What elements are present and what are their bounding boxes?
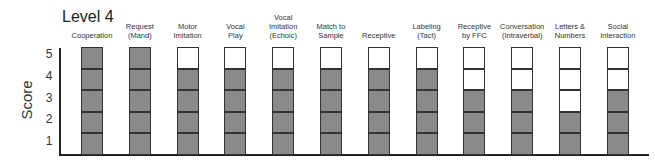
filled-score-cell <box>368 133 390 155</box>
score-column <box>368 47 390 155</box>
y-axis-label: Score <box>18 80 35 120</box>
empty-score-cell <box>511 47 533 69</box>
empty-score-cell <box>272 47 294 69</box>
y-tick-2: 2 <box>44 112 54 126</box>
score-column <box>81 47 103 155</box>
filled-score-cell <box>177 133 199 155</box>
filled-score-cell <box>463 133 485 155</box>
filled-score-cell <box>511 90 533 112</box>
filled-score-cell <box>320 133 342 155</box>
chart-title: Level 4 <box>62 8 114 26</box>
empty-score-cell <box>320 47 342 69</box>
filled-score-cell <box>559 133 581 155</box>
filled-score-cell <box>129 69 151 91</box>
filled-score-cell <box>224 90 246 112</box>
score-column <box>320 47 342 155</box>
filled-score-cell <box>416 90 438 112</box>
filled-score-cell <box>272 90 294 112</box>
filled-score-cell <box>463 90 485 112</box>
filled-score-cell <box>81 47 103 69</box>
score-column <box>559 47 581 155</box>
y-tick-4: 4 <box>44 69 54 83</box>
filled-score-cell <box>81 90 103 112</box>
filled-score-cell <box>272 112 294 134</box>
filled-score-cell <box>320 112 342 134</box>
empty-score-cell <box>463 47 485 69</box>
filled-score-cell <box>272 69 294 91</box>
filled-score-cell <box>320 90 342 112</box>
score-column <box>224 47 246 155</box>
y-tick-1: 1 <box>44 134 54 148</box>
filled-score-cell <box>416 112 438 134</box>
filled-score-cell <box>177 69 199 91</box>
y-tick-3: 3 <box>44 91 54 105</box>
filled-score-cell <box>177 112 199 134</box>
y-axis <box>59 48 61 156</box>
filled-score-cell <box>416 133 438 155</box>
filled-score-cell <box>416 69 438 91</box>
filled-score-cell <box>463 112 485 134</box>
score-column <box>511 47 533 155</box>
filled-score-cell <box>129 90 151 112</box>
filled-score-cell <box>368 69 390 91</box>
empty-score-cell <box>559 47 581 69</box>
empty-score-cell <box>559 69 581 91</box>
empty-score-cell <box>416 47 438 69</box>
filled-score-cell <box>81 69 103 91</box>
filled-score-cell <box>177 90 199 112</box>
filled-score-cell <box>511 112 533 134</box>
filled-score-cell <box>607 133 629 155</box>
empty-score-cell <box>177 47 199 69</box>
filled-score-cell <box>224 69 246 91</box>
score-column <box>177 47 199 155</box>
empty-score-cell <box>559 90 581 112</box>
filled-score-cell <box>224 112 246 134</box>
filled-score-cell <box>368 90 390 112</box>
empty-score-cell <box>511 69 533 91</box>
filled-score-cell <box>129 133 151 155</box>
filled-score-cell <box>559 112 581 134</box>
empty-score-cell <box>463 69 485 91</box>
score-column <box>129 47 151 155</box>
y-tick-5: 5 <box>44 47 54 61</box>
score-column <box>607 47 629 155</box>
filled-score-cell <box>129 112 151 134</box>
empty-score-cell <box>607 69 629 91</box>
filled-score-cell <box>320 69 342 91</box>
filled-score-cell <box>224 133 246 155</box>
category-label: Social Interaction <box>588 22 648 40</box>
score-column <box>463 47 485 155</box>
filled-score-cell <box>81 133 103 155</box>
filled-score-cell <box>81 112 103 134</box>
score-column <box>272 47 294 155</box>
empty-score-cell <box>368 47 390 69</box>
empty-score-cell <box>607 47 629 69</box>
filled-score-cell <box>272 133 294 155</box>
filled-score-cell <box>607 90 629 112</box>
filled-score-cell <box>129 47 151 69</box>
score-column <box>416 47 438 155</box>
filled-score-cell <box>607 112 629 134</box>
empty-score-cell <box>224 47 246 69</box>
filled-score-cell <box>368 112 390 134</box>
filled-score-cell <box>511 133 533 155</box>
